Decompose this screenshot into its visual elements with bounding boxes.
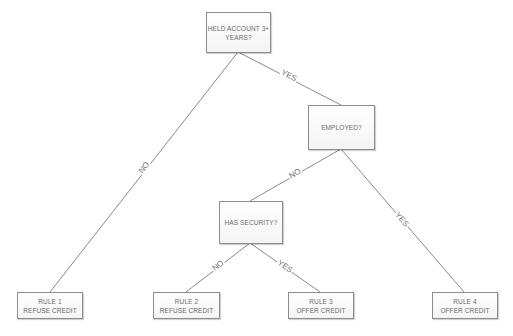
node-label: HAS SECURITY? bbox=[225, 218, 278, 227]
node-rule-2: RULE 2 REFUSE CREDIT bbox=[153, 292, 220, 319]
node-has-security: HAS SECURITY? bbox=[219, 201, 283, 244]
node-label: EMPLOYED? bbox=[321, 123, 362, 132]
node-rule-4: RULE 4 OFFER CREDIT bbox=[432, 292, 498, 319]
node-rule-1: RULE 1 REFUSE CREDIT bbox=[17, 292, 83, 319]
node-employed: EMPLOYED? bbox=[308, 105, 375, 150]
node-held-account: HELD ACCOUNT 3+ YEARS? bbox=[206, 12, 271, 53]
node-label: RULE 2 REFUSE CREDIT bbox=[160, 297, 214, 315]
node-label: RULE 3 OFFER CREDIT bbox=[296, 297, 345, 315]
node-label: HELD ACCOUNT 3+ YEARS? bbox=[208, 24, 270, 42]
node-rule-3: RULE 3 OFFER CREDIT bbox=[288, 292, 354, 319]
node-label: RULE 1 REFUSE CREDIT bbox=[23, 297, 77, 315]
node-label: RULE 4 OFFER CREDIT bbox=[440, 297, 489, 315]
